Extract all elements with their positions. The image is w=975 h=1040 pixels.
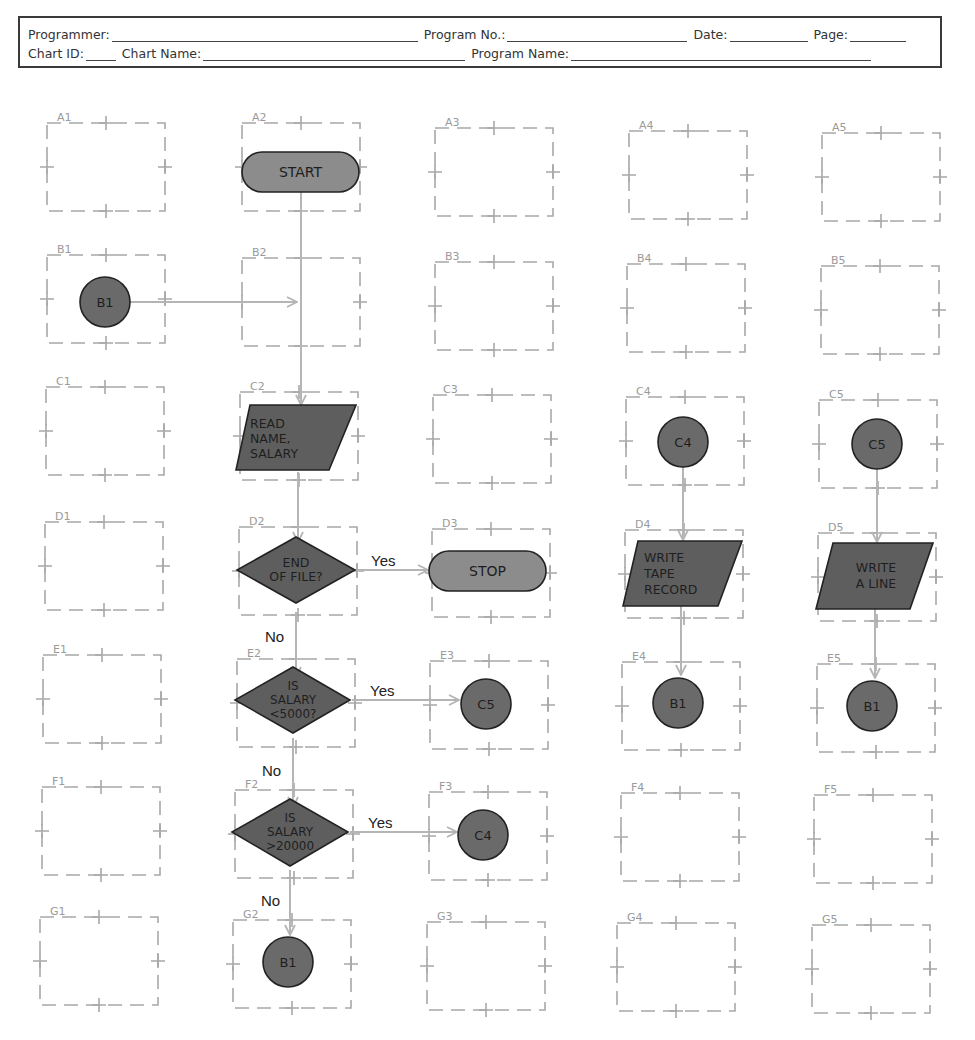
cell-label: D2: [247, 516, 266, 528]
gt20000-line-1: IS: [284, 811, 295, 825]
read-text: READ NAME, SALARY: [244, 407, 344, 469]
grid-cell-a1: A1: [47, 123, 165, 211]
cell-label: D4: [633, 519, 652, 531]
cell-label: G2: [241, 909, 261, 921]
grid-cell-f5: F5: [814, 795, 932, 883]
gt20000-no-label: No: [261, 892, 280, 909]
gt20000-yes-label: Yes: [368, 814, 392, 831]
write-tape-line-1: WRITE: [644, 550, 684, 566]
cell-label: G5: [820, 914, 840, 926]
grid-cell-d1: D1: [45, 522, 163, 610]
c4-exit-text: C4: [458, 810, 508, 860]
gt20000-line-3: >20000: [266, 839, 314, 853]
cell-label: A2: [250, 112, 269, 124]
grid-cell-b3: B3: [435, 262, 553, 350]
c5-exit-text: C5: [461, 679, 511, 729]
cell-label: C2: [248, 381, 267, 393]
write-tape-line-3: RECORD: [644, 582, 697, 598]
cell-label: E2: [245, 648, 263, 660]
c5-entry-text: C5: [852, 419, 902, 469]
cell-label: G3: [435, 911, 455, 923]
c4-entry-text: C4: [658, 417, 708, 467]
flowchart-grid: A1 A2 A3 A4 A5 B1 B2 B3 B4 B5 C1 C2 C3 C…: [0, 0, 975, 1040]
eof-line-2: OF FILE?: [269, 570, 322, 584]
grid-cell-g5: G5: [812, 925, 930, 1013]
cell-label: B3: [443, 251, 462, 263]
grid-cell-a3: A3: [435, 128, 553, 216]
cell-label: F3: [437, 781, 454, 793]
gt20000-line-2: SALARY: [267, 825, 313, 839]
cell-label: E3: [438, 650, 456, 662]
cell-label: B5: [829, 255, 848, 267]
write-line-line-2: A LINE: [856, 576, 896, 592]
eof-text: END OF FILE?: [246, 550, 346, 590]
grid-cell-f4: F4: [621, 793, 739, 881]
cell-label: D5: [826, 522, 845, 534]
eof-yes-label: Yes: [371, 552, 395, 569]
lt5000-text: IS SALARY <5000?: [243, 676, 343, 724]
grid-cell-c1: C1: [46, 387, 164, 475]
lt5000-line-3: <5000?: [270, 707, 317, 721]
b1-g2-text: B1: [263, 937, 313, 987]
grid-cell-e1: E1: [43, 655, 161, 743]
b1-entry-text: B1: [80, 277, 130, 327]
grid-cell-b5: B5: [821, 266, 939, 354]
lt5000-no-label: No: [262, 762, 281, 779]
write-tape-text: WRITE TAPE RECORD: [632, 543, 732, 605]
grid-cell-a4: A4: [629, 131, 747, 219]
cell-label: A3: [443, 117, 462, 129]
grid-cell-b4: B4: [627, 264, 745, 352]
grid-cell-a5: A5: [822, 133, 940, 221]
grid-cell-g4: G4: [617, 923, 735, 1011]
cell-label: C3: [441, 384, 460, 396]
read-line-1: READ: [250, 416, 285, 431]
b1-e4-text: B1: [653, 678, 703, 728]
lt5000-line-1: IS: [287, 679, 298, 693]
eof-no-label: No: [265, 628, 284, 645]
cell-label: F2: [243, 779, 260, 791]
cell-label: B1: [55, 244, 74, 256]
start-text: START: [242, 152, 359, 192]
grid-cell-b2: B2: [242, 258, 360, 346]
cell-label: A4: [637, 120, 656, 132]
cell-label: C1: [54, 376, 73, 388]
cell-label: F4: [629, 782, 646, 794]
cell-label: D3: [440, 518, 459, 530]
cell-label: F5: [822, 784, 839, 796]
grid-cell-f1: F1: [42, 787, 160, 875]
cell-label: E1: [51, 644, 69, 656]
lt5000-line-2: SALARY: [270, 693, 316, 707]
lt5000-yes-label: Yes: [370, 682, 394, 699]
cell-label: A1: [55, 112, 74, 124]
write-line-text: WRITE A LINE: [826, 548, 926, 604]
cell-label: G1: [48, 906, 68, 918]
grid-cell-g1: G1: [40, 917, 158, 1005]
read-line-3: SALARY: [250, 446, 298, 461]
gt20000-text: IS SALARY >20000: [240, 808, 340, 856]
cell-label: F1: [50, 776, 67, 788]
cell-label: G4: [625, 912, 645, 924]
cell-label: C5: [827, 389, 846, 401]
write-line-line-1: WRITE: [856, 560, 896, 576]
eof-line-1: END: [283, 556, 310, 570]
read-line-2: NAME,: [250, 431, 291, 446]
cell-label: B4: [635, 253, 654, 265]
grid-cell-g3: G3: [427, 922, 545, 1010]
b1-e5-text: B1: [847, 681, 897, 731]
stop-text: STOP: [429, 551, 546, 591]
grid-cell-c3: C3: [433, 395, 551, 483]
write-tape-line-2: TAPE: [644, 566, 675, 582]
cell-label: A5: [830, 122, 849, 134]
cell-label: D1: [53, 511, 72, 523]
cell-label: B2: [250, 247, 269, 259]
cell-label: C4: [634, 386, 653, 398]
cell-label: E5: [825, 653, 843, 665]
cell-label: E4: [630, 651, 648, 663]
